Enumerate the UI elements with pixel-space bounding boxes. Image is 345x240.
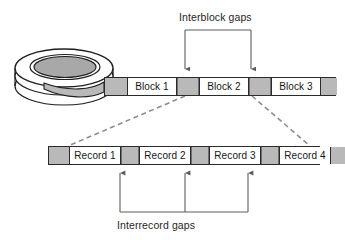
- track-cell-record-4: Record 4: [279, 147, 331, 164]
- track-gap-segment: [321, 78, 337, 95]
- track-cell-record-1: Record 1: [69, 147, 121, 164]
- track-cell-block-3: Block 3: [271, 78, 321, 95]
- interrecord-bracket: [120, 173, 248, 212]
- interblock-gaps-label: Interblock gaps: [179, 11, 252, 23]
- track-gap-segment: [331, 147, 345, 164]
- track-gap-segment: [49, 147, 69, 164]
- track-cell-record-2: Record 2: [139, 147, 191, 164]
- tape-reel-illustration: [15, 49, 113, 105]
- track-gap-segment: [177, 78, 199, 95]
- track-gap-segment: [191, 147, 209, 164]
- track-gap-segment: [249, 78, 271, 95]
- track-cell-record-3: Record 3: [209, 147, 261, 164]
- track-gap-segment: [261, 147, 279, 164]
- tape-block-track: Block 1Block 2Block 3: [104, 77, 336, 96]
- track-cell-block-1: Block 1: [127, 78, 177, 95]
- track-gap-segment: [121, 147, 139, 164]
- magnification-leader-lines: [68, 96, 310, 146]
- track-gap-segment: [105, 78, 127, 95]
- tape-record-track: Record 1Record 2Record 3Record 4: [48, 146, 320, 165]
- leader-line-right: [252, 96, 310, 146]
- reel-hub-core: [34, 57, 96, 78]
- interrecord-gaps-label: Interrecord gaps: [117, 219, 195, 231]
- track-cell-block-2: Block 2: [199, 78, 249, 95]
- interblock-bracket: [185, 30, 251, 69]
